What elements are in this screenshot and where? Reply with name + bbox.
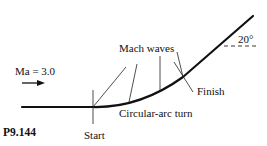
mach-wave-4: [177, 52, 183, 77]
angle-label: 20°: [238, 34, 253, 45]
arc-label: Circular-arc turn: [119, 108, 192, 119]
flow-arrow-icon: [37, 80, 45, 86]
problem-id-label: P9.144: [3, 127, 36, 139]
start-label: Start: [84, 130, 105, 141]
mach-wave-1: [93, 67, 126, 107]
inflow-mach-label: Ma = 3.0: [15, 66, 55, 77]
mach-waves-label: Mach waves: [119, 43, 174, 54]
mach-wave-2: [129, 64, 137, 102]
finish-line: [174, 62, 193, 92]
finish-label: Finish: [197, 86, 225, 97]
